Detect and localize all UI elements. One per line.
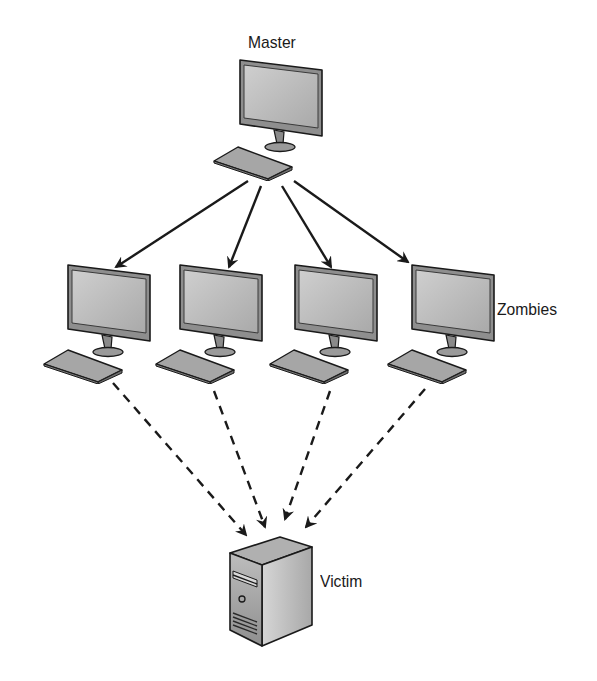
master-computer xyxy=(214,60,322,181)
zombie-computer-2 xyxy=(156,265,262,384)
diagram-canvas xyxy=(0,0,597,681)
arrow-master-to-zombie-4 xyxy=(294,181,408,262)
victim-label: Victim xyxy=(320,572,362,592)
arrow-master-to-zombie-1 xyxy=(116,181,248,267)
desktop-computer-icon xyxy=(240,60,322,152)
desktop-computer-icon xyxy=(412,265,494,357)
zombies-label: Zombies xyxy=(497,300,557,320)
attack-arrows xyxy=(113,383,425,535)
zombie-computer-3 xyxy=(270,265,377,384)
victim-server xyxy=(230,537,312,646)
master-label: Master xyxy=(248,33,296,53)
arrow-master-to-zombie-3 xyxy=(282,186,331,267)
command-arrows xyxy=(116,181,408,267)
desktop-computer-icon xyxy=(295,265,377,357)
server-tower-icon xyxy=(230,537,312,646)
zombie-computer-1 xyxy=(44,265,150,384)
desktop-computer-icon xyxy=(180,265,262,357)
zombie-computer-4 xyxy=(388,265,494,384)
arrow-master-to-zombie-2 xyxy=(229,186,261,267)
arrow-zombie-1-to-victim xyxy=(113,383,246,535)
desktop-computer-icon xyxy=(68,265,150,357)
arrow-zombie-3-to-victim xyxy=(285,391,330,519)
